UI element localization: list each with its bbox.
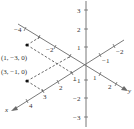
- point-1-label: (1, −3, 0): [1, 54, 28, 62]
- z-tick-m2: −2: [73, 95, 81, 103]
- point-2-marker: [25, 79, 28, 82]
- x-axis-label: x: [4, 106, 9, 114]
- x-tick-1: 1: [73, 75, 77, 83]
- z-tick-3: 3: [77, 7, 81, 15]
- y-axis: [18, 24, 126, 90]
- x-axis: [13, 40, 124, 110]
- y-tick-m2: −2: [46, 46, 54, 54]
- y-tick-m4: −4: [14, 26, 22, 34]
- y-tick-1: 1: [93, 74, 97, 82]
- x-tick-m2: −2: [116, 48, 124, 56]
- y-axis-label: y: [127, 87, 132, 95]
- z-tick-m3: −3: [73, 114, 81, 122]
- coordinate-diagram: 3 2 1 −1 −2 −3 −4 −2 1 2 y −2 −1 1 2 3 4…: [0, 0, 134, 129]
- y-axis-arrow-icon: [121, 86, 128, 91]
- x-tick-3: 3: [43, 93, 47, 101]
- point-2-label: (3, −1, 0): [1, 68, 28, 76]
- y-tick-2: 2: [108, 83, 112, 91]
- z-tick-2: 2: [77, 26, 81, 34]
- axes-svg: 3 2 1 −1 −2 −3 −4 −2 1 2 y −2 −1 1 2 3 4…: [0, 0, 134, 129]
- z-tick-1: 1: [77, 44, 81, 52]
- x-tick-m1: −1: [102, 57, 110, 65]
- x-axis-arrow-icon: [11, 106, 18, 111]
- x-tick-2: 2: [59, 84, 63, 92]
- x-tick-4: 4: [29, 102, 33, 110]
- point-1-marker: [25, 43, 28, 46]
